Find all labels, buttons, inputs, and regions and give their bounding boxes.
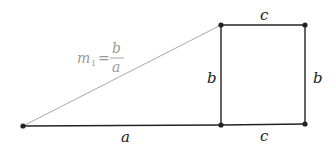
- label-a: a: [121, 128, 130, 146]
- slope-denominator: a: [112, 59, 120, 75]
- segment-c-bottom: [221, 124, 305, 125]
- geometry-diagram: a c c b b m 1 = b a: [0, 0, 333, 150]
- point-square-top-left: [218, 22, 223, 27]
- point-square-bottom-left: [218, 122, 223, 127]
- slope-subscript: 1: [91, 59, 96, 68]
- slope-m: m: [77, 50, 90, 66]
- slope-numerator: b: [112, 40, 121, 56]
- slope-equals: =: [98, 50, 110, 66]
- label-b-left: b: [207, 69, 217, 87]
- point-origin: [20, 123, 25, 128]
- label-c-top: c: [260, 6, 269, 24]
- label-c-bottom: c: [260, 127, 269, 145]
- point-square-bottom-right: [302, 121, 307, 126]
- point-square-top-right: [302, 22, 307, 27]
- hypotenuse-line: [23, 25, 221, 126]
- segment-a: [23, 125, 221, 126]
- slope-label: m 1 = b a: [77, 40, 124, 75]
- label-b-right: b: [313, 69, 323, 87]
